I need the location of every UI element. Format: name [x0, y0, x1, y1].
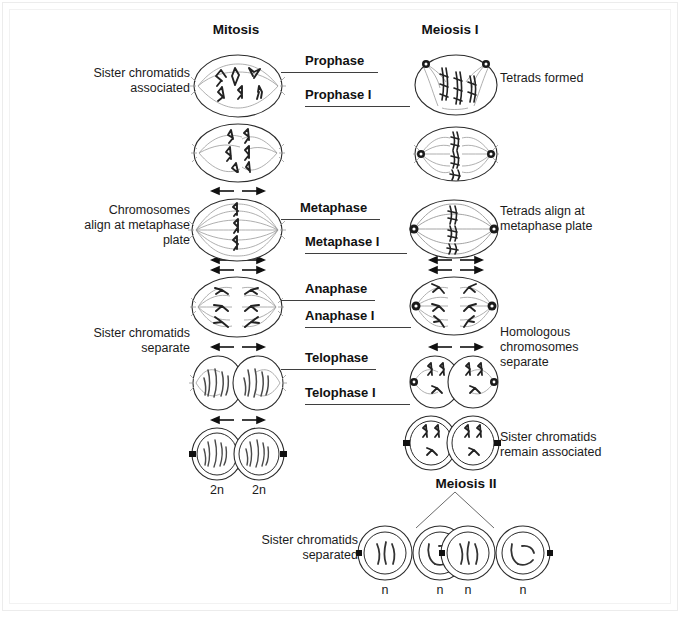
column-title-meiosis-ii: Meiosis II [406, 476, 526, 491]
phase-rule-metaphase-i [305, 253, 389, 254]
cell-meiosis-anaphase-i [404, 274, 504, 338]
cell-mitosis-late-prophase [190, 121, 286, 185]
phase-label-metaphase-i: Metaphase I [305, 234, 379, 251]
label-sister-chromatids-remain: Sister chromatids remain associated [500, 430, 660, 460]
arrows-meiosis-telophase-i-top [430, 342, 482, 353]
phase-rule-prophase [305, 72, 378, 73]
cell-meiosis-ii-gametes [357, 524, 551, 582]
phase-label-prophase: Prophase [305, 53, 364, 70]
column-title-mitosis: Mitosis [176, 22, 296, 37]
label-homologous-separate: Homologous chromosomes separate [500, 325, 650, 370]
label-tetrads-formed: Tetrads formed [500, 71, 650, 86]
phase-label-metaphase: Metaphase [300, 200, 367, 217]
ploidy-label-gamete-1: n [358, 583, 412, 597]
phase-rule-telophase [305, 369, 376, 370]
label-sister-chromatids-separated: Sister chromatids separated [228, 533, 358, 563]
label-chromosomes-align: Chromosomes align at metaphase plate [44, 203, 190, 248]
phase-label-telophase-i: Telophase I [305, 385, 376, 402]
cell-mitosis-telophase [190, 354, 286, 412]
cell-meiosis-prophase-i [412, 52, 500, 118]
phase-rule-telophase-i [305, 404, 380, 405]
cell-mitosis-prophase [190, 52, 286, 120]
cell-mitosis-metaphase [188, 196, 286, 264]
phase-label-anaphase-i: Anaphase I [305, 308, 374, 325]
column-title-meiosis-i: Meiosis I [390, 22, 510, 37]
label-tetrads-align: Tetrads align at metaphase plate [500, 204, 660, 234]
phase-rule-anaphase-i [305, 327, 379, 328]
ploidy-label-gamete-4: n [496, 583, 550, 597]
cell-meiosis-late-prophase-i [412, 124, 500, 184]
cell-meiosis-telophase-i [408, 354, 500, 410]
cell-mitosis-anaphase [188, 274, 286, 340]
phase-rule-anaphase [305, 300, 375, 301]
phase-label-prophase-i: Prophase I [305, 87, 371, 104]
ploidy-label-mitosis-right: 2n [232, 483, 286, 497]
phase-label-telophase: Telophase [305, 350, 368, 367]
connector-prophase-i-meiosis [382, 106, 410, 107]
cell-meiosis-metaphase-i [404, 196, 504, 262]
ploidy-label-gamete-3: n [441, 583, 495, 597]
mitosis-meiosis-diagram: Mitosis Meiosis I Meiosis II Sister chro… [0, 0, 684, 619]
phase-label-anaphase: Anaphase [305, 281, 367, 298]
cell-meiosis-ii-parent-cells [404, 414, 500, 472]
arrows-mitosis-daughter-cells [212, 415, 264, 426]
label-sister-chromatids-separate: Sister chromatids separate [60, 326, 190, 356]
connector-telophase-i-meiosis [380, 404, 410, 405]
phase-rule-prophase-i [305, 106, 382, 107]
arrows-mitosis-telophase-top [212, 342, 264, 353]
label-sister-chromatids-associated: Sister chromatids associated [60, 66, 190, 96]
phase-rule-metaphase [300, 219, 380, 220]
cell-mitosis-daughter-cells [190, 426, 286, 482]
